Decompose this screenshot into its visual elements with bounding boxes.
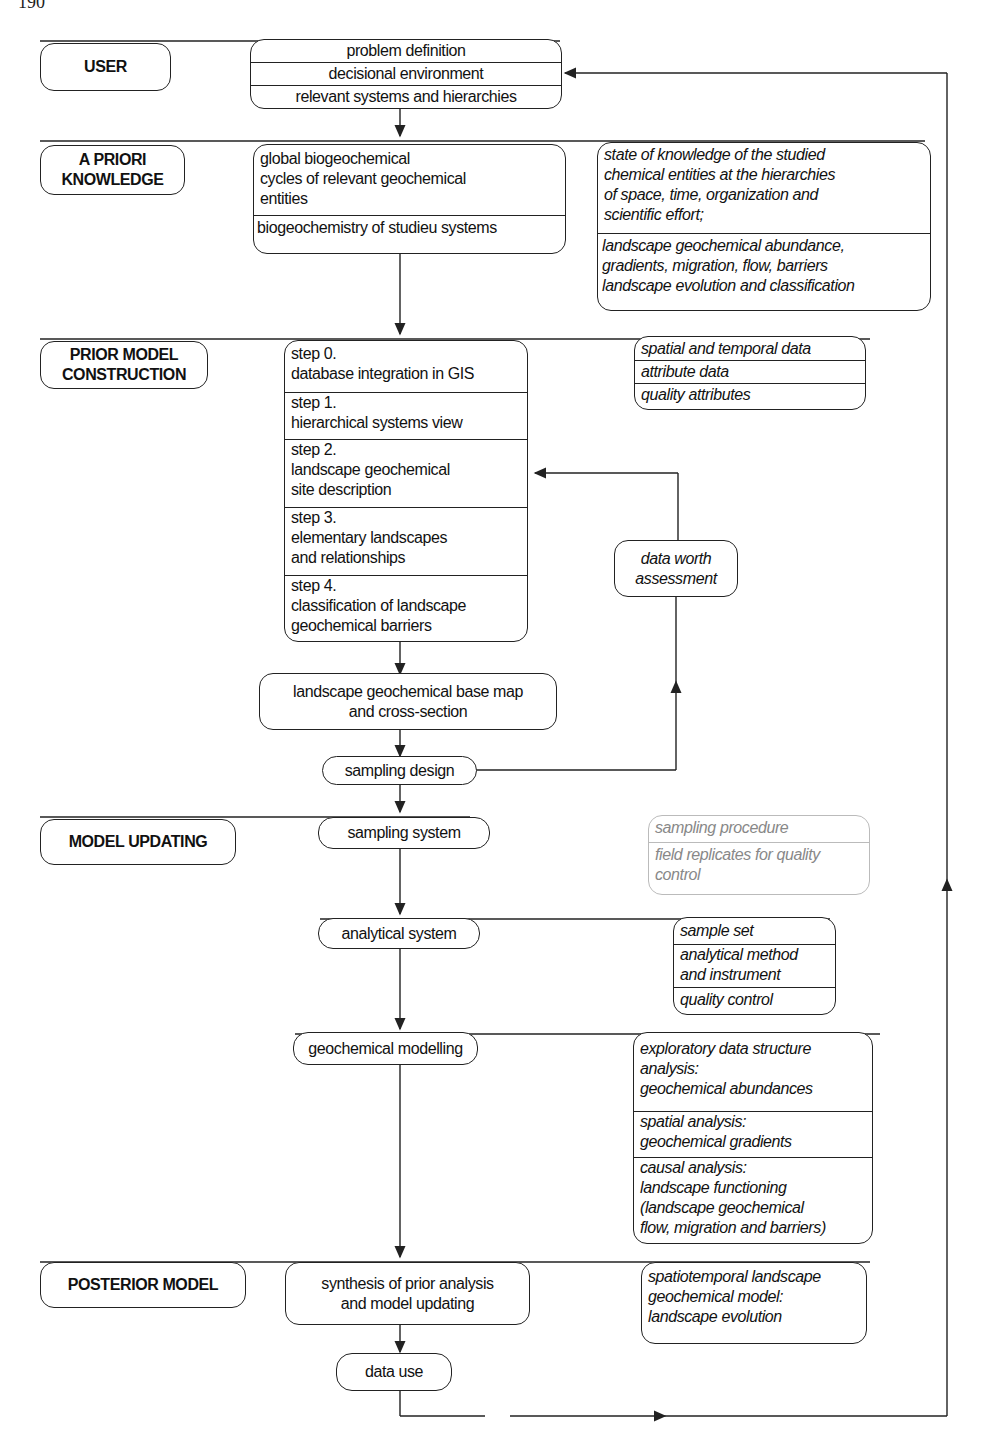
steps-box: step 0. database integration in GIS step… bbox=[284, 340, 528, 642]
stage-a-priori-knowledge: A PRIORI KNOWLEDGE bbox=[40, 145, 185, 195]
analytical-method: analytical method and instrument bbox=[674, 944, 835, 987]
causal-analysis: causal analysis: landscape functioning (… bbox=[634, 1157, 872, 1244]
sampling-design: sampling design bbox=[322, 756, 477, 785]
step-3: step 3. elementary landscapes and relati… bbox=[285, 507, 527, 575]
spatial-analysis: spatial analysis: geochemical gradients bbox=[634, 1111, 872, 1157]
quality-control: quality control bbox=[674, 987, 835, 1014]
data-worth-assessment: data worth assessment bbox=[614, 540, 738, 597]
spatiotemporal-model: spatiotemporal landscape geochemical mod… bbox=[642, 1263, 866, 1327]
relevant-systems: relevant systems and hierarchies bbox=[251, 85, 561, 109]
geochemical-modelling: geochemical modelling bbox=[293, 1032, 478, 1065]
exploratory-analysis: exploratory data structure analysis: geo… bbox=[634, 1033, 872, 1111]
apriori-side-box: state of knowledge of the studied chemic… bbox=[597, 142, 931, 311]
decisional-environment: decisional environment bbox=[251, 62, 561, 85]
page-number: 190 bbox=[18, 0, 45, 13]
biogeochemistry-systems: biogeochemistry of studieu systems bbox=[254, 215, 565, 242]
stage-model-updating: MODEL UPDATING bbox=[40, 819, 236, 865]
posterior-side-box: spatiotemporal landscape geochemical mod… bbox=[641, 1262, 867, 1344]
base-map-box: landscape geochemical base map and cross… bbox=[259, 673, 557, 730]
stage-posterior-model: POSTERIOR MODEL bbox=[40, 1262, 246, 1308]
sample-set: sample set bbox=[674, 918, 835, 944]
sampling-procedure: sampling procedure bbox=[649, 816, 869, 842]
modelling-side-box: exploratory data structure analysis: geo… bbox=[633, 1032, 873, 1244]
analytical-system: analytical system bbox=[318, 918, 480, 949]
problem-definition: problem definition bbox=[251, 40, 561, 62]
stage-user: USER bbox=[40, 43, 171, 91]
landscape-geochemical-abundance: landscape geochemical abundance, gradien… bbox=[598, 233, 930, 306]
global-cycles: global biogeochemical cycles of relevant… bbox=[254, 145, 565, 215]
stage-prior-model-construction: PRIOR MODEL CONSTRUCTION bbox=[40, 341, 208, 389]
sampling-side-box: sampling procedure field replicates for … bbox=[648, 815, 870, 895]
state-of-knowledge: state of knowledge of the studied chemic… bbox=[598, 143, 930, 233]
step-2: step 2. landscape geochemical site descr… bbox=[285, 439, 527, 507]
synthesis-box: synthesis of prior analysis and model up… bbox=[285, 1262, 530, 1325]
attribute-data: attribute data bbox=[635, 360, 865, 383]
apriori-box: global biogeochemical cycles of relevant… bbox=[253, 144, 566, 254]
data-use: data use bbox=[336, 1353, 452, 1391]
spatial-temporal-data: spatial and temporal data bbox=[635, 337, 865, 360]
user-box: problem definition decisional environmen… bbox=[250, 39, 562, 109]
step-4: step 4. classification of landscape geoc… bbox=[285, 575, 527, 642]
sampling-system: sampling system bbox=[318, 817, 490, 849]
analytical-side-box: sample set analytical method and instrum… bbox=[673, 917, 836, 1015]
quality-attributes: quality attributes bbox=[635, 383, 865, 408]
prior-side-box: spatial and temporal data attribute data… bbox=[634, 336, 866, 410]
step-1: step 1. hierarchical systems view bbox=[285, 392, 527, 439]
field-replicates: field replicates for quality control bbox=[649, 842, 869, 895]
step-0: step 0. database integration in GIS bbox=[285, 341, 527, 392]
